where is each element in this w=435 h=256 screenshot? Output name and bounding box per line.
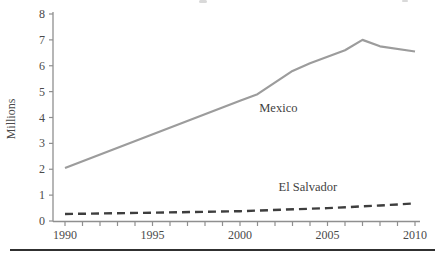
y-tick-label: 3 [39,136,45,150]
bottom-rule [10,249,435,251]
y-tick-label: 4 [39,111,45,125]
y-tick-label: 0 [39,214,45,228]
y-tick-label: 2 [39,162,45,176]
x-tick-label: 2005 [316,228,340,242]
y-tick-label: 6 [39,59,45,73]
series-line-mexico [65,40,415,168]
y-tick-label: 8 [39,7,45,21]
y-axis-title: Millions [4,98,18,139]
series-label-el-salvador: El Salvador [279,180,339,194]
chart-figure: Millions 01234567819901995200020052010Me… [0,0,435,256]
y-tick-label: 7 [39,33,45,47]
x-tick-label: 2000 [228,228,252,242]
y-tick-label: 1 [39,188,45,202]
series-line-el-salvador [65,203,415,214]
series-label-mexico: Mexico [259,101,297,115]
x-tick-label: 1990 [53,228,77,242]
x-tick-label: 2010 [403,228,427,242]
y-tick-label: 5 [39,85,45,99]
x-tick-label: 1995 [141,228,165,242]
line-chart: Millions 01234567819901995200020052010Me… [0,0,435,256]
